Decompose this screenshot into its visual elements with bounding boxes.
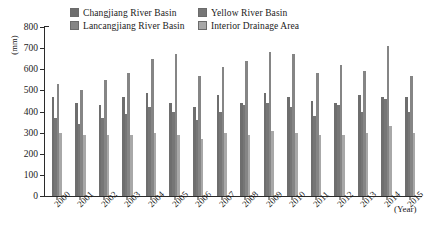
y-tick-0	[40, 196, 45, 197]
legend-swatch-changjiang	[70, 8, 79, 17]
bar-2001-s3	[83, 135, 86, 196]
x-axis-title: (Year)	[394, 204, 417, 214]
legend-swatch-yellow	[198, 8, 207, 17]
bar-group-2002	[92, 27, 116, 196]
y-tick-label-0: 0	[33, 191, 38, 201]
bar-group-2006	[186, 27, 210, 196]
bar-2002-s3	[107, 135, 110, 196]
bar-group-2013	[351, 27, 375, 196]
bar-group-2010	[281, 27, 305, 196]
plot-area: 0100200300400500600700800 20002001200220…	[44, 27, 422, 197]
y-tick-label-500: 500	[24, 85, 38, 95]
bar-2004-s3	[154, 133, 157, 196]
bar-group-2004	[139, 27, 163, 196]
bar-group-2012	[328, 27, 352, 196]
bar-2003-s3	[130, 135, 133, 196]
legend-item-yellow: Yellow River Basin	[198, 8, 330, 18]
y-tick-label-100: 100	[24, 170, 38, 180]
y-tick-label-700: 700	[24, 43, 38, 53]
bar-group-2014	[375, 27, 399, 196]
y-tick-label-600: 600	[24, 64, 38, 74]
bar-2015-s3	[413, 133, 416, 196]
bar-2009-s3	[271, 131, 274, 196]
bar-2012-s3	[342, 135, 345, 196]
bar-group-2003	[116, 27, 140, 196]
bar-2014-s3	[389, 126, 392, 196]
bar-2013-s3	[366, 133, 369, 196]
legend-label-changjiang: Changjiang River Basin	[83, 8, 177, 18]
bar-2010-s3	[295, 133, 298, 196]
bar-group-2001	[69, 27, 93, 196]
bar-2000-s3	[59, 133, 62, 196]
bar-group-2011	[304, 27, 328, 196]
bar-2007-s3	[224, 133, 227, 196]
bar-chart: Changjiang River Basin Yellow River Basi…	[0, 0, 434, 231]
bar-2005-s3	[177, 135, 180, 196]
y-tick-label-800: 800	[24, 22, 38, 32]
bar-group-2008	[234, 27, 258, 196]
bar-2006-s3	[201, 139, 204, 196]
bar-group-2007	[210, 27, 234, 196]
bar-2008-s3	[248, 135, 251, 196]
bar-group-2015	[398, 27, 422, 196]
y-tick-label-200: 200	[24, 149, 38, 159]
y-axis-title: (mm)	[9, 30, 19, 60]
bar-group-2005	[163, 27, 187, 196]
legend-label-yellow: Yellow River Basin	[211, 8, 287, 18]
y-tick-label-400: 400	[24, 107, 38, 117]
bar-group-2009	[257, 27, 281, 196]
bar-group-2000	[45, 27, 69, 196]
bar-2011-s3	[319, 135, 322, 196]
legend-item-changjiang: Changjiang River Basin	[70, 8, 198, 18]
y-tick-label-300: 300	[24, 128, 38, 138]
